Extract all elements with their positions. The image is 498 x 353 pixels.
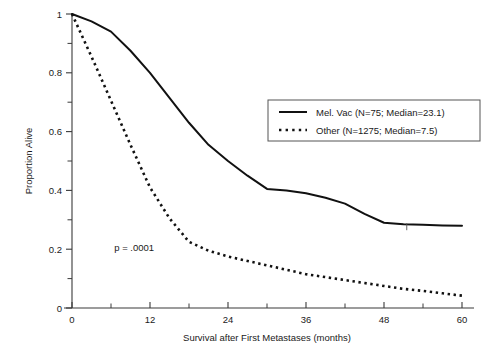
chart-annotations: p = .0001 [114,242,154,253]
x-tick-label: 24 [223,314,234,325]
legend-label: Mel. Vac (N=75; Median=23.1) [316,107,445,118]
y-tick-label: 0.8 [49,67,62,78]
chart-legend: Mel. Vac (N=75; Median=23.1)Other (N=127… [268,100,480,141]
x-tick-label: 60 [457,314,468,325]
x-tick-label: 48 [379,314,390,325]
y-tick-label: 0.4 [49,185,62,196]
x-axis-title: Survival after First Metastases (months) [183,332,351,343]
x-tick-label: 36 [301,314,312,325]
y-tick-label: 0.2 [49,244,62,255]
y-tick-label: 1 [57,9,62,20]
series-line-other [72,14,462,296]
axis-tick-labels: 0122436486000.20.40.60.81 [49,9,468,326]
legend-label: Other (N=1275; Median=7.5) [316,125,437,136]
p-value-annotation: p = .0001 [114,242,154,253]
axis-ticks [66,14,462,308]
y-tick-label: 0 [57,303,62,314]
survival-chart: 0122436486000.20.40.60.81 p = .0001 Mel.… [0,0,498,353]
axes [64,13,474,308]
x-tick-label: 0 [69,314,74,325]
x-tick-label: 12 [145,314,156,325]
y-axis-title: Proportion Alive [23,128,34,195]
plot-area: 0122436486000.20.40.60.81 p = .0001 Mel.… [0,0,498,353]
y-tick-label: 0.6 [49,126,62,137]
data-series [72,14,462,296]
